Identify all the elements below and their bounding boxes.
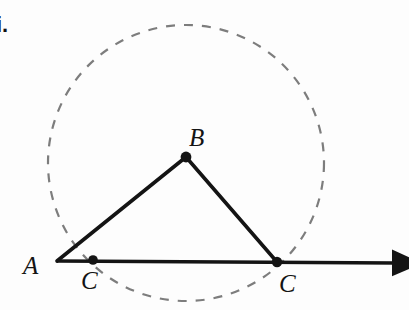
point-C-right-dot [272,257,282,267]
point-A-label: A [23,253,38,278]
figure-canvas [0,0,409,310]
point-C-left-dot [88,255,98,265]
geometry-figure: i. A B C C [0,0,409,310]
ray-A-through-C [57,261,395,263]
list-item-marker: i. [0,14,8,36]
segment-BC [186,157,277,262]
point-B-dot [181,152,192,163]
point-B-label: B [189,125,204,150]
segment-AB [57,157,186,261]
point-C-left-label: C [81,268,98,293]
point-C-right-label: C [279,271,296,296]
